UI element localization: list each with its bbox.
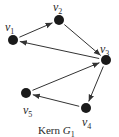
edge-v1-v2 bbox=[19, 23, 52, 37]
node-v1 bbox=[8, 35, 18, 45]
edge-v5-v3 bbox=[32, 63, 99, 91]
edge-v2-v3 bbox=[64, 25, 100, 56]
directed-graph: v1v2v3v4v5 Kern G1 bbox=[0, 0, 119, 137]
node-v2 bbox=[54, 15, 64, 25]
edge-v3-v4 bbox=[89, 66, 104, 101]
node-v5 bbox=[21, 88, 31, 98]
node-label-v4: v4 bbox=[82, 115, 91, 131]
node-label-v1: v1 bbox=[5, 20, 14, 36]
node-v4 bbox=[81, 103, 91, 113]
edge-v4-v5 bbox=[33, 95, 79, 107]
node-label-v3: v3 bbox=[100, 42, 109, 58]
node-label-v2: v2 bbox=[53, 0, 62, 16]
graph-caption: Kern G1 bbox=[38, 124, 75, 137]
node-label-v5: v5 bbox=[23, 103, 32, 119]
